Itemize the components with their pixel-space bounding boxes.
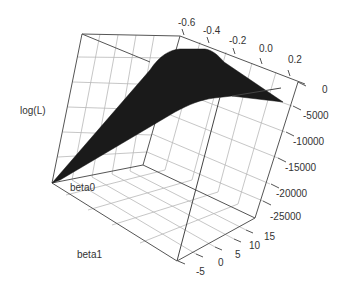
- z-tick-label: -5000: [303, 111, 329, 121]
- z-tick-label: -10000: [293, 137, 324, 147]
- x-axis-label: beta0: [70, 183, 95, 193]
- x-tick-label: -0.6: [178, 18, 195, 28]
- y-tick-label: 15: [264, 232, 275, 242]
- x-tick-label: 0.0: [259, 44, 273, 54]
- y-axis-label: beta1: [77, 250, 102, 260]
- z-tick-label: -25000: [270, 212, 301, 222]
- x-tick-label: -0.2: [229, 36, 246, 46]
- z-tick-label: -20000: [276, 189, 307, 199]
- x-tick-label: 0.2: [288, 55, 302, 65]
- z-tick-label: 0: [322, 85, 328, 95]
- y-tick-label: 5: [235, 250, 241, 260]
- y-tick-label: 0: [218, 258, 224, 268]
- surface-plot: -0.6 -0.4 -0.2 0.0 0.2 0 -5000 -10000 -1…: [0, 0, 344, 291]
- z-tick-label: -15000: [285, 163, 316, 173]
- y-tick-label: 10: [249, 241, 260, 251]
- x-tick-label: -0.4: [203, 26, 220, 36]
- z-axis-label: log(L): [20, 106, 46, 116]
- likelihood-surface: [52, 49, 283, 183]
- y-tick-label: -5: [196, 267, 205, 277]
